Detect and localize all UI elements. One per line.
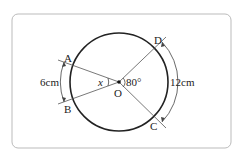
arc-CD-length-label: 12cm xyxy=(170,76,195,88)
circle-sector-diagram: A B C D O x 80° 6cm 12cm xyxy=(0,0,241,153)
angle-x-label: x xyxy=(97,76,103,88)
label-D: D xyxy=(154,34,162,46)
center-point xyxy=(117,80,121,84)
label-O: O xyxy=(114,87,122,99)
label-B: B xyxy=(64,103,71,115)
arc-AB-length-label: 6cm xyxy=(40,76,59,88)
label-A: A xyxy=(64,52,72,64)
angle-80-label: 80° xyxy=(126,76,141,88)
label-C: C xyxy=(150,120,157,132)
